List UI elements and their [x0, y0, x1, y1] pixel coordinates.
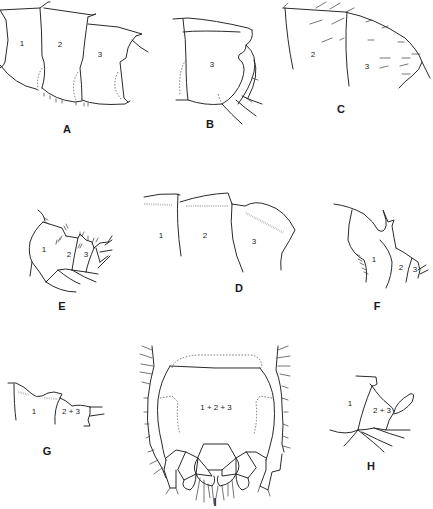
- panel-g-label: G: [43, 445, 52, 457]
- panel-f-label: F: [374, 300, 381, 312]
- segment-1-label: 1: [42, 245, 47, 254]
- segment-3-label: 3: [413, 265, 418, 274]
- segment-2-3-label: 2 + 3: [62, 407, 81, 416]
- panel-c: 2 3 C: [283, 2, 430, 115]
- panel-i: 1 + 2 + 3 I: [140, 346, 290, 508]
- segment-1-2-3-label: 1 + 2 + 3: [200, 403, 232, 412]
- segment-2-label: 2: [311, 50, 316, 59]
- segment-3-label: 3: [365, 62, 370, 71]
- segment-3-label: 3: [98, 50, 103, 59]
- segment-3-label: 3: [84, 250, 89, 259]
- panel-h: 1 2 + 3 H: [330, 376, 414, 472]
- panel-h-label: H: [367, 460, 375, 472]
- panel-d: 1 2 3 D: [144, 193, 295, 294]
- segment-1-label: 1: [32, 407, 37, 416]
- segment-1-label: 1: [20, 39, 25, 48]
- segment-2-label: 2: [58, 40, 63, 49]
- panel-b: 3 B: [173, 18, 262, 130]
- panel-g: 1 2 + 3 G: [8, 383, 104, 457]
- panel-a: 1 2 3 A: [0, 2, 148, 135]
- segment-1-label: 1: [348, 399, 353, 408]
- segment-3-label: 3: [252, 237, 257, 246]
- panel-e: 1 2 3 E: [29, 210, 112, 312]
- segment-2-label: 2: [67, 250, 72, 259]
- panel-d-label: D: [235, 282, 243, 294]
- panel-i-label: I: [213, 496, 216, 508]
- figure-plate: 1 2 3 A 3 B 2 3 C: [0, 0, 433, 509]
- panel-e-label: E: [58, 300, 65, 312]
- panel-b-label: B: [206, 118, 214, 130]
- segment-2-label: 2: [203, 231, 208, 240]
- segment-1-label: 1: [372, 255, 377, 264]
- panel-a-label: A: [63, 123, 71, 135]
- panel-f: 1 2 3 F: [334, 204, 428, 312]
- segment-2-label: 2: [399, 263, 404, 272]
- segment-1-label: 1: [159, 231, 164, 240]
- segment-2-3-label: 2 + 3: [373, 406, 392, 415]
- segment-3-label: 3: [210, 60, 215, 69]
- panel-c-label: C: [337, 103, 345, 115]
